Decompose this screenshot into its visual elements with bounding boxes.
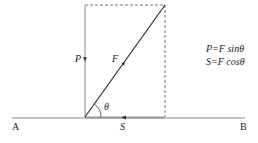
label-p: P (74, 53, 81, 64)
s-arrow-icon (121, 116, 126, 120)
f-force-line (85, 5, 165, 117)
formula-p: P=F sinθ (205, 43, 244, 54)
formula-s: S=F cosθ (206, 56, 245, 67)
label-f: F (111, 53, 119, 64)
p-arrow-icon (83, 57, 86, 62)
force-diagram: P F θ S A B P=F sinθ S=F cosθ (0, 0, 258, 143)
label-a: A (12, 121, 20, 132)
theta-arc (94, 104, 101, 117)
label-theta: θ (104, 101, 109, 112)
label-b: B (240, 121, 247, 132)
label-s: S (120, 121, 125, 132)
